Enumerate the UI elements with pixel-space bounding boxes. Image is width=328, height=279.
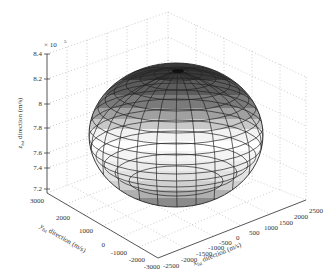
svg-text:1000: 1000	[79, 227, 94, 235]
svg-text:7.2: 7.2	[33, 185, 42, 193]
svg-text:-1000: -1000	[111, 249, 128, 257]
svg-text:zfst direction (m/s): zfst direction (m/s)	[16, 97, 25, 150]
svg-text:2000: 2000	[294, 213, 309, 221]
svg-text:× 10: × 10	[44, 41, 57, 49]
svg-text:-3000: -3000	[144, 263, 161, 271]
ellipsoid-3d-plot: 8.4 8.2 8 7.8 7.6 7.4 7.2 × 10 5 zfst di…	[0, 0, 328, 279]
svg-text:8.2: 8.2	[33, 75, 42, 83]
svg-text:0: 0	[102, 241, 106, 249]
svg-text:8: 8	[39, 100, 43, 108]
svg-text:1500: 1500	[279, 219, 294, 227]
svg-text:-2500: -2500	[163, 262, 180, 270]
svg-text:500: 500	[249, 229, 260, 237]
svg-text:1000: 1000	[264, 224, 279, 232]
x-tick-labels: -2500 -2000 -1500 -1000 -500 0 500 1000 …	[163, 207, 324, 270]
svg-text:7.6: 7.6	[33, 149, 42, 157]
svg-text:5: 5	[64, 39, 67, 44]
ellipsoid-surface	[85, 60, 267, 210]
svg-text:8.4: 8.4	[33, 50, 42, 58]
svg-text:7.4: 7.4	[33, 164, 42, 172]
svg-text:7.8: 7.8	[33, 124, 42, 132]
svg-text:2500: 2500	[309, 207, 324, 215]
svg-text:2000: 2000	[56, 214, 71, 222]
z-multiplier: × 10 5	[44, 39, 67, 49]
z-axis-label: zfst direction (m/s)	[16, 97, 25, 150]
z-tick-labels: 8.4 8.2 8 7.8 7.6 7.4 7.2	[33, 50, 42, 193]
svg-text:3000: 3000	[30, 197, 45, 205]
